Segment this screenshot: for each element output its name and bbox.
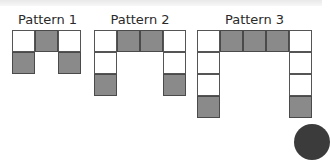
unshaded-tile	[12, 30, 35, 52]
shaded-tile	[243, 30, 266, 52]
unshaded-tile	[94, 30, 117, 52]
unshaded-tile	[289, 74, 312, 96]
pattern-2-title: Pattern 2	[94, 12, 186, 27]
shaded-tile	[197, 96, 220, 118]
corner-button[interactable]	[294, 124, 330, 160]
shaded-tile	[117, 30, 140, 52]
pattern-3-title: Pattern 3	[197, 12, 312, 27]
shaded-tile	[58, 52, 81, 74]
unshaded-tile	[197, 30, 220, 52]
shaded-tile	[220, 30, 243, 52]
unshaded-tile	[289, 30, 312, 52]
unshaded-tile	[94, 52, 117, 74]
unshaded-tile	[58, 30, 81, 52]
pattern-1-title: Pattern 1	[12, 12, 83, 27]
unshaded-tile	[197, 74, 220, 96]
top-strip	[0, 0, 322, 6]
shaded-tile	[163, 74, 186, 96]
shaded-tile	[140, 30, 163, 52]
shaded-tile	[12, 52, 35, 74]
unshaded-tile	[163, 52, 186, 74]
shaded-tile	[35, 30, 58, 52]
unshaded-tile	[163, 30, 186, 52]
shaded-tile	[289, 96, 312, 118]
unshaded-tile	[197, 52, 220, 74]
shaded-tile	[94, 74, 117, 96]
shaded-tile	[266, 30, 289, 52]
unshaded-tile	[289, 52, 312, 74]
